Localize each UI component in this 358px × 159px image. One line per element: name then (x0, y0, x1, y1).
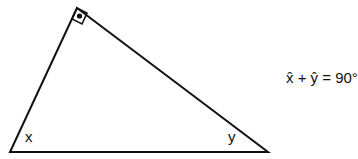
angle-label-y: y (228, 128, 236, 145)
angle-sum-formula: x̂ + ŷ = 90° (286, 69, 358, 86)
angle-label-x: x (25, 128, 33, 145)
right-angle-dot (77, 13, 82, 18)
diagram-canvas: x y x̂ + ŷ = 90° (0, 0, 358, 159)
